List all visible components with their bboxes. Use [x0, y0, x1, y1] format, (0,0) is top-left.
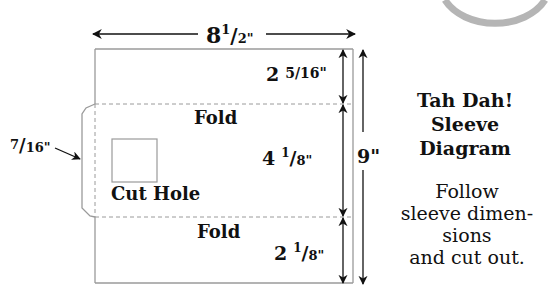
- middle-section-label: 41/8": [262, 146, 312, 169]
- title-line: Sleeve: [390, 112, 540, 136]
- cut-hole-label: Cut Hole: [111, 183, 200, 204]
- bottom-section-label: 21/8": [274, 241, 324, 264]
- instruction-line: and cut out.: [382, 246, 552, 268]
- width-label: 81/2": [206, 22, 254, 48]
- flap-label: 7/16": [10, 135, 51, 156]
- title-line: Tah Dah!: [390, 88, 540, 112]
- diagram-title: Tah Dah! Sleeve Diagram: [390, 88, 540, 160]
- title-line: Diagram: [390, 136, 540, 160]
- instruction-line: Follow: [382, 180, 552, 202]
- flap-pointer-arrow: [55, 148, 80, 159]
- instruction-line: sions: [382, 224, 552, 246]
- instruction-line: sleeve dimen-: [382, 202, 552, 224]
- height-label: 9": [357, 145, 380, 167]
- fold-top-label: Fold: [194, 107, 238, 128]
- instructions-text: Follow sleeve dimen- sions and cut out.: [382, 180, 552, 268]
- top-section-label: 25/16": [266, 63, 327, 85]
- fold-bottom-label: Fold: [197, 221, 241, 242]
- cut-hole-square: [112, 139, 157, 182]
- badge-ring-decoration: [445, 0, 545, 23]
